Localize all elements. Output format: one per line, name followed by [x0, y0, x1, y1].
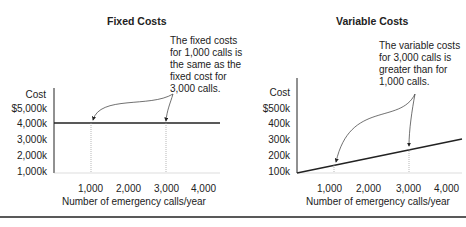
xtick: 2,000 [356, 183, 381, 195]
ytick: 100k [268, 166, 290, 178]
right-xlabel: Number of emergency calls/year [306, 196, 450, 208]
xtick: 2,000 [116, 183, 141, 195]
ytick: 1,000k [17, 166, 47, 178]
left-title: Fixed Costs [107, 15, 167, 27]
right-note: The variable costsfor 3,000 calls isgrea… [379, 40, 460, 88]
xtick: 3,000 [396, 183, 421, 195]
ytick: 200k [268, 150, 290, 162]
xtick: 4,000 [434, 183, 459, 195]
xtick: 1,000 [78, 183, 103, 195]
xtick: 1,000 [317, 183, 342, 195]
xtick: 3,000 [154, 183, 179, 195]
left-note: The fixed costsfor 1,000 calls isthe sam… [170, 35, 242, 95]
ytick: $500k [263, 103, 290, 115]
xtick: 4,000 [191, 183, 216, 195]
right-title: Variable Costs [336, 15, 408, 27]
ytick: $5,000k [11, 103, 47, 115]
ytick: 4,000k [17, 118, 47, 130]
ytick: 400k [268, 118, 290, 130]
right-ylabel: Cost [269, 87, 290, 99]
left-ylabel: Cost [25, 89, 46, 101]
ytick: 3,000k [17, 134, 47, 146]
ytick: 300k [268, 134, 290, 146]
ytick: 2,000k [17, 150, 47, 162]
left-xlabel: Number of emergency calls/year [62, 196, 206, 208]
